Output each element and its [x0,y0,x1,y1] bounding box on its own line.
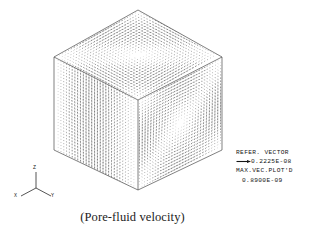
max-vector-value: 0.8900E-09 [236,176,314,185]
right-face-vectors [139,61,221,187]
max-vector-label: MAX.VEC.PLOT'D [236,166,314,175]
right-arrow-icon [236,158,251,165]
vector-legend: REFER. VECTOR 0.2225E-08 MAX.VEC.PLOT'D … [236,148,314,185]
axis-label-y: Y [51,194,54,199]
reference-vector-row: 0.2225E-08 [236,157,314,166]
reference-vector-value: 0.2225E-08 [251,157,292,166]
axis-triad: Z X Y [14,166,58,202]
reference-vector-label: REFER. VECTOR [236,148,314,157]
pore-fluid-velocity-figure: REFER. VECTOR 0.2225E-08 MAX.VEC.PLOT'D … [0,0,315,243]
axis-label-x: X [14,194,17,199]
cube-wireframe [54,10,222,190]
vector-field-plot [0,0,315,243]
axis-label-z: Z [33,166,36,171]
figure-caption: (Pore-fluid velocity) [0,210,265,225]
